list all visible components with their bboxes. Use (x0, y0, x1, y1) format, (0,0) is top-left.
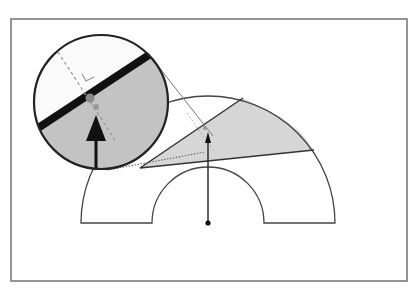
contact-point-marker-small (203, 126, 207, 130)
magnifier-inset (20, 35, 200, 200)
diagram-canvas (0, 0, 419, 290)
arrow-base-dot (205, 220, 210, 225)
inset-contact-marker-2 (93, 104, 99, 110)
inset-contact-marker (86, 94, 95, 103)
